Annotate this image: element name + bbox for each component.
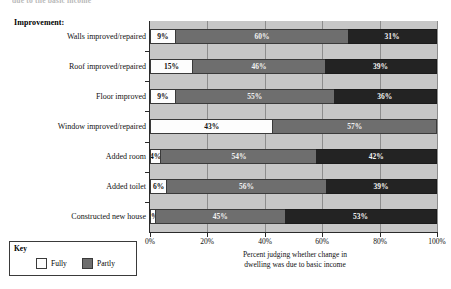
x-axis-line [149, 232, 438, 233]
bar-segment-partly: 46% [193, 59, 325, 74]
stacked-bar: 9%55%36% [150, 89, 437, 104]
bar-segment-other: 53% [285, 209, 437, 224]
stacked-bar: 2%45%53% [150, 209, 437, 224]
bar-segment-partly: 55% [176, 89, 334, 104]
bar-segment-fully: 9% [150, 89, 176, 104]
category-label: Window improved/repaired [58, 122, 146, 131]
y-axis-tick [145, 142, 150, 143]
category-label: Roof improved/repaired [69, 62, 146, 71]
stacked-bar: 43%57% [150, 119, 437, 134]
bar-segment-other: 39% [325, 59, 437, 74]
bar-segment-other: 36% [334, 89, 437, 104]
x-axis-tick-label: 20% [187, 237, 227, 246]
bar-segment-partly: 45% [156, 209, 285, 224]
bar-segment-partly: 54% [161, 149, 316, 164]
x-axis-tick-label: 40% [245, 237, 285, 246]
stacked-bar: 4%54%42% [150, 149, 437, 164]
stacked-bar: 6%56%39% [150, 179, 437, 194]
legend-title: Key [14, 244, 27, 253]
x-axis-caption-line-2: dwelling was due to basic income [180, 260, 410, 270]
bar-segment-fully: 4% [150, 149, 161, 164]
category-label: Constructed new house [71, 212, 146, 221]
bar-segment-partly: 57% [273, 119, 437, 134]
gridline [437, 21, 438, 232]
x-axis-tick-label: 0% [130, 237, 170, 246]
legend-item-partly: Partly [82, 258, 115, 269]
legend-label-fully: Fully [51, 259, 67, 268]
bar-segment-other: 31% [348, 29, 437, 44]
category-label: Walls improved/repaired [67, 32, 146, 41]
x-axis-caption-line-1: Percent judging whether change in [180, 250, 410, 260]
bar-segment-fully: 9% [150, 29, 176, 44]
bar-segment-fully: 15% [150, 59, 193, 74]
y-axis-tick [145, 111, 150, 112]
legend-swatch-partly [82, 258, 93, 269]
x-axis-tick-label: 80% [360, 237, 400, 246]
stacked-bar: 15%46%39% [150, 59, 437, 74]
legend-label-partly: Partly [97, 259, 115, 268]
legend-item-fully: Fully [36, 258, 67, 269]
y-axis-tick [145, 51, 150, 52]
x-axis-tick-label: 60% [302, 237, 342, 246]
x-axis-caption: Percent judging whether change in dwelli… [180, 250, 410, 270]
bar-segment-fully: 43% [150, 119, 273, 134]
y-axis-tick [145, 172, 150, 173]
x-axis-tick-label: 100% [417, 237, 451, 246]
bar-segment-other: 39% [326, 179, 437, 194]
bar-segment-partly: 60% [176, 29, 348, 44]
bar-segment-other: 42% [316, 149, 437, 164]
category-label: Floor improved [96, 92, 146, 101]
bar-segment-fully: 6% [150, 179, 167, 194]
bar-segment-partly: 56% [167, 179, 326, 194]
stacked-bar: 9%60%31% [150, 29, 437, 44]
category-label: Added room [106, 152, 146, 161]
y-axis-tick [145, 202, 150, 203]
legend-swatch-fully [36, 258, 47, 269]
y-axis-tick [145, 81, 150, 82]
chart-legend: Key Fully Partly [9, 241, 137, 276]
category-label: Added toilet [106, 182, 146, 191]
